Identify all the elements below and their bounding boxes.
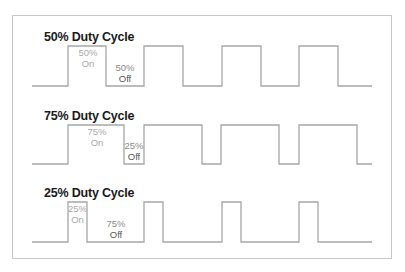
- on-label-50: 50% On: [70, 47, 106, 69]
- panel-title-50: 50% Duty Cycle: [44, 30, 134, 44]
- off-word: Off: [106, 73, 144, 84]
- off-percent: 50%: [106, 62, 144, 73]
- off-label-75: 25% Off: [123, 140, 145, 162]
- on-label-75: 75% On: [78, 126, 116, 148]
- off-percent: 25%: [123, 140, 145, 151]
- on-word: On: [67, 214, 88, 225]
- off-label-25: 75% Off: [97, 218, 135, 240]
- on-percent: 25%: [67, 203, 88, 214]
- on-percent: 50%: [70, 47, 106, 58]
- off-word: Off: [123, 151, 145, 162]
- off-label-50: 50% Off: [106, 62, 144, 84]
- panel-title-75: 75% Duty Cycle: [44, 109, 134, 123]
- on-word: On: [78, 137, 116, 148]
- on-label-25: 25% On: [67, 203, 88, 225]
- off-word: Off: [97, 229, 135, 240]
- on-word: On: [70, 58, 106, 69]
- on-percent: 75%: [78, 126, 116, 137]
- panel-title-25: 25% Duty Cycle: [44, 186, 134, 200]
- off-percent: 75%: [97, 218, 135, 229]
